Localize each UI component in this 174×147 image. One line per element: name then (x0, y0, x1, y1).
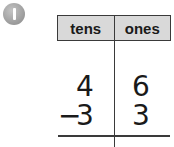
header-ones: ones (114, 16, 171, 40)
place-value-header: tens ones (57, 15, 171, 41)
minuend-ones: 6 (132, 73, 150, 101)
subtrahend-tens: 3 (76, 102, 94, 130)
answer-line (58, 135, 170, 137)
problem-number-badge (3, 3, 25, 25)
minuend-tens: 4 (76, 73, 94, 101)
header-tens: tens (58, 16, 114, 40)
number-one-icon (13, 8, 16, 20)
subtrahend-ones: 3 (132, 102, 150, 130)
column-divider (114, 41, 115, 147)
